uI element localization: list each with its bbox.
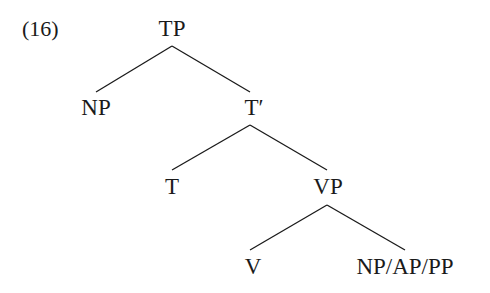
example-number: (16) bbox=[22, 18, 59, 40]
edge-tp-tbar bbox=[172, 46, 250, 92]
node-vp: VP bbox=[313, 175, 342, 198]
edge-tbar-t bbox=[172, 125, 250, 170]
node-complement: NP/AP/PP bbox=[356, 255, 453, 278]
node-t-bar: T′ bbox=[244, 96, 263, 119]
node-tp: TP bbox=[159, 17, 186, 40]
edge-tp-np bbox=[96, 46, 172, 92]
tree-edges bbox=[0, 0, 490, 293]
edge-vp-comp bbox=[327, 205, 405, 250]
syntax-tree-diagram: (16) TP NP T′ T VP V NP/AP/PP bbox=[0, 0, 490, 293]
edge-tbar-vp bbox=[250, 125, 327, 170]
node-np: NP bbox=[81, 96, 110, 119]
node-t: T bbox=[165, 175, 179, 198]
edge-vp-v bbox=[250, 205, 327, 250]
node-v: V bbox=[245, 255, 262, 278]
